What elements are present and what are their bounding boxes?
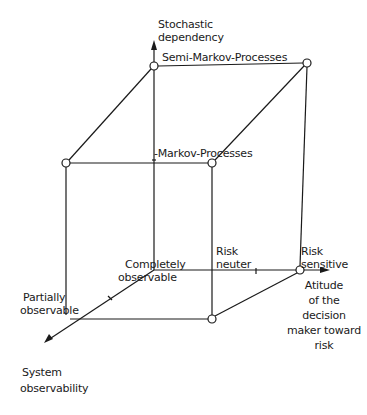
markov-label: -Markov-Processes: [154, 147, 252, 160]
vertical-axis-label-line1: Stochastic: [158, 18, 224, 31]
vertical-axis-label-line2: dependency: [158, 31, 224, 44]
vertical-axis-label: Stochastic dependency: [158, 18, 224, 44]
depth-axis-label-line1: System: [20, 365, 88, 381]
horizontal-axis-label-line2: of the: [272, 293, 367, 308]
node-front-bottom-right: [208, 315, 216, 323]
depth-axis-label: System observability: [20, 365, 88, 397]
partially-observable-line1: Partially: [20, 291, 79, 304]
completely-observable-line2: observable: [118, 271, 186, 284]
arrow-down-left-icon: [44, 334, 53, 343]
partially-observable-line2: observable: [20, 304, 79, 317]
node-semi-markov-back-left: [150, 62, 158, 70]
semi-markov-label: Semi-Markov-Processes: [162, 51, 287, 64]
horizontal-axis-label-line1: Atitude: [272, 278, 367, 293]
horizontal-axis-label: Atitude of the decision maker toward ris…: [272, 278, 367, 353]
risk-neuter-label: Risk neuter: [216, 245, 251, 271]
completely-observable-label: Completely observable: [118, 258, 186, 284]
horizontal-axis-label-line5: risk: [272, 338, 367, 353]
risk-sensitive-label: Risk sensitive: [301, 245, 348, 271]
arrow-up-icon: [151, 40, 157, 50]
risk-sensitive-line1: Risk: [301, 245, 348, 258]
completely-observable-line1: Completely: [118, 258, 186, 271]
horizontal-axis-label-line3: decision: [272, 308, 367, 323]
node-semi-markov-back-right: [303, 59, 311, 67]
risk-neuter-line2: neuter: [216, 258, 251, 271]
risk-sensitive-line2: sensitive: [301, 258, 348, 271]
horizontal-axis-label-line4: maker toward: [272, 323, 367, 338]
depth-axis-label-line2: observability: [20, 381, 88, 397]
risk-neuter-line1: Risk: [216, 245, 251, 258]
node-markov-front-right: [208, 159, 216, 167]
node-markov-front-left: [62, 159, 70, 167]
partially-observable-label: Partially observable: [20, 291, 79, 317]
